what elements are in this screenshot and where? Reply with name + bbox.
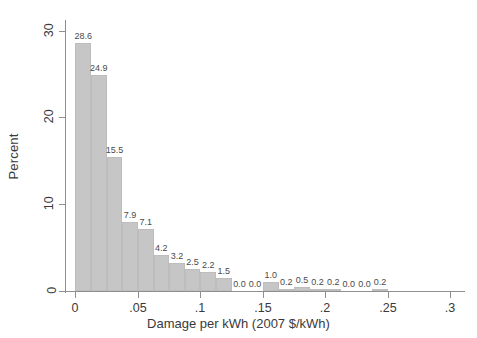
bar-value-label: 0.2: [360, 278, 400, 287]
y-axis-title: Percent: [6, 22, 24, 291]
x-axis-tick: [388, 292, 389, 298]
bar-value-label: 28.6: [63, 32, 103, 41]
bar: [122, 222, 138, 291]
bar: [169, 263, 185, 291]
bar: [75, 43, 91, 291]
y-axis-tick: [59, 117, 65, 118]
x-axis-tick-label: .15: [243, 301, 283, 315]
x-axis-tick: [325, 292, 326, 298]
bar: [185, 269, 201, 291]
x-axis-tick-label: .1: [180, 301, 220, 315]
bar: [107, 157, 123, 292]
bar: [138, 229, 154, 291]
histogram-figure: Percent 0102030 0.05.1.15.2.25.3 28.624.…: [0, 0, 477, 338]
bar-value-label: 1.5: [204, 267, 244, 276]
x-axis-tick-label: 0: [55, 301, 95, 315]
x-axis-tick-label: .05: [118, 301, 158, 315]
x-axis-tick-label: .25: [368, 301, 408, 315]
bar: [325, 289, 341, 291]
bar: [310, 289, 326, 291]
bar-value-label: 24.9: [79, 64, 119, 73]
x-axis-tick: [200, 292, 201, 298]
bar-value-label: 15.5: [94, 146, 134, 155]
bar-value-label: 7.1: [126, 218, 166, 227]
bar: [372, 289, 388, 291]
y-axis-tick-label: 0: [0, 284, 56, 297]
x-axis-line: [66, 291, 465, 292]
y-axis-tick: [59, 204, 65, 205]
x-axis-tick: [263, 292, 264, 298]
x-axis-tick: [450, 292, 451, 298]
x-axis-tick-label: .3: [430, 301, 470, 315]
bar: [91, 75, 107, 291]
y-axis-tick: [59, 291, 65, 292]
x-axis-title: Damage per kWh (2007 $/kWh): [0, 316, 477, 331]
bar: [294, 287, 310, 291]
x-axis-tick: [138, 292, 139, 298]
x-axis-tick: [75, 292, 76, 298]
y-axis-tick-label: 20: [0, 110, 56, 123]
bar: [279, 289, 295, 291]
x-axis-tick-label: .2: [305, 301, 345, 315]
y-axis-tick-label: 10: [0, 197, 56, 210]
plot-area: 28.624.915.57.97.14.23.22.52.21.50.00.01…: [66, 22, 466, 291]
y-axis-tick-label: 30: [0, 24, 56, 37]
